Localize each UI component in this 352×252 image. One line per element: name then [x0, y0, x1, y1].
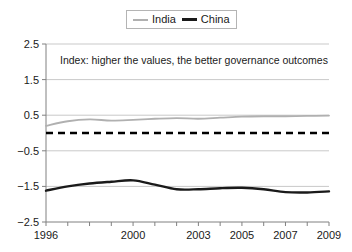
x-tick-label: 2009 — [317, 229, 341, 241]
x-tick-label: 2003 — [186, 229, 210, 241]
y-tick-label: 0.5 — [24, 109, 39, 121]
y-tick-label: −1.5 — [17, 180, 39, 192]
y-tick-label: −2.5 — [17, 216, 39, 228]
y-tick-label: 1.5 — [24, 74, 39, 86]
x-tick-label: 1996 — [34, 229, 58, 241]
y-tick-label: 2.5 — [24, 38, 39, 50]
series-line-india — [46, 116, 329, 126]
x-axis-ticks: 199620002003200520072009 — [34, 222, 341, 241]
x-tick-label: 2000 — [121, 229, 145, 241]
y-axis-ticks: 2.51.50.5−0.5−1.5−2.5 — [17, 38, 46, 228]
x-tick-label: 2007 — [273, 229, 297, 241]
governance-index-chart: India China 2.51.50.5−0.5−1.5−2.5 199620… — [0, 0, 352, 252]
x-tick-label: 2005 — [230, 229, 254, 241]
y-tick-label: −0.5 — [17, 145, 39, 157]
chart-annotation: Index: higher the values, the better gov… — [60, 54, 328, 66]
plot-area: 2.51.50.5−0.5−1.5−2.5 199620002003200520… — [0, 0, 352, 252]
